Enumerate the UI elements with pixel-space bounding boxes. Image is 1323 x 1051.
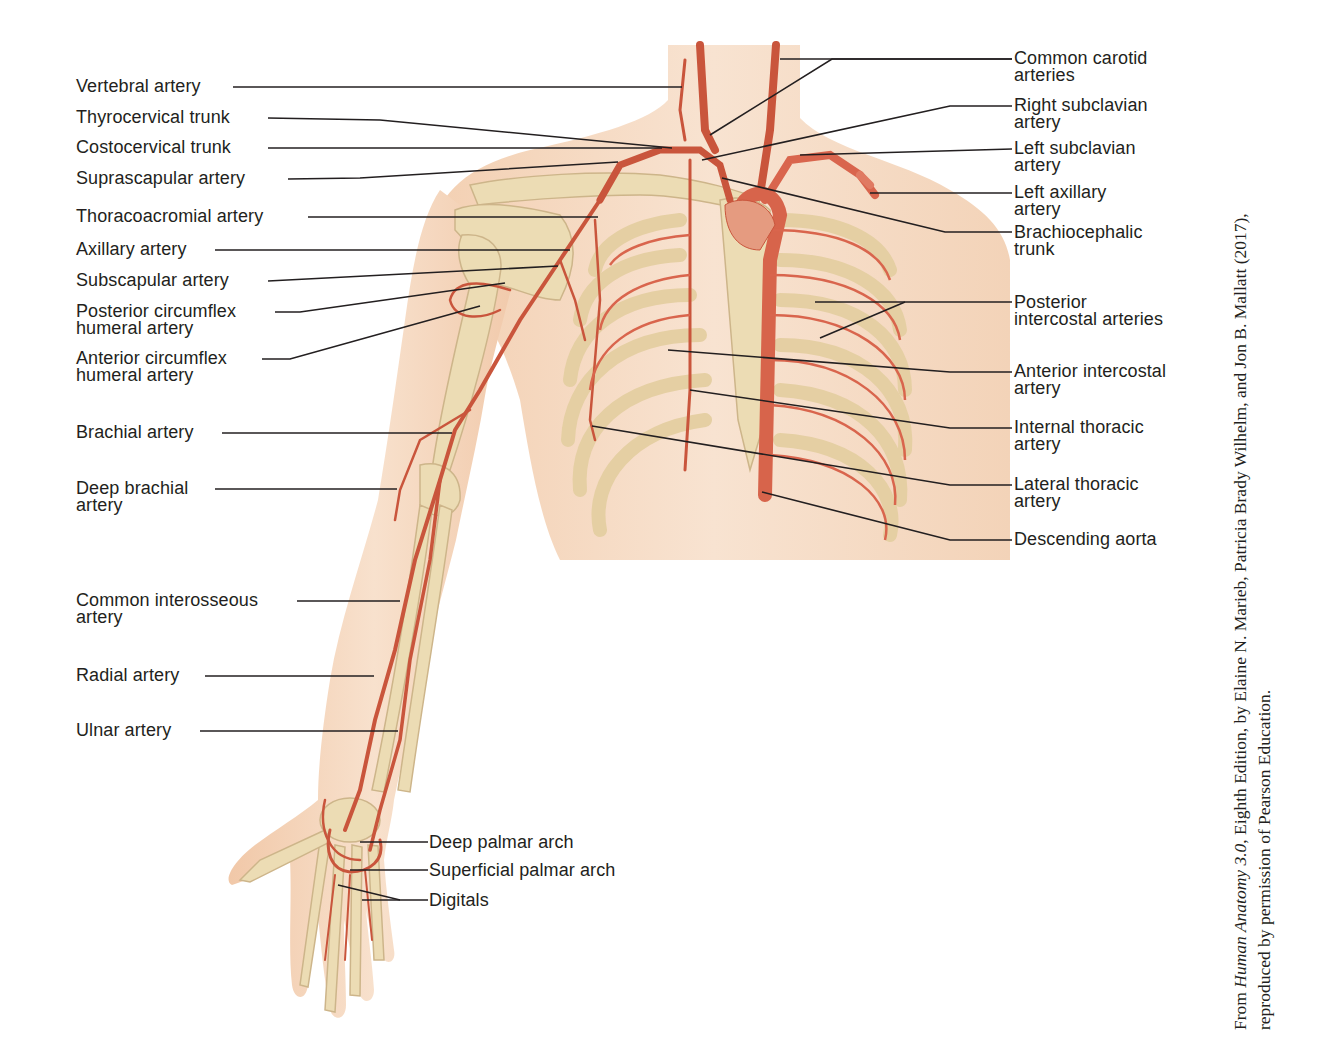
label-digitals: Digitals: [429, 892, 489, 909]
label-superficial-palmar-arch: Superficial palmar arch: [429, 862, 615, 879]
label-thyrocervical-trunk: Thyrocervical trunk: [76, 109, 230, 126]
label-costocervical-trunk: Costocervical trunk: [76, 139, 231, 156]
label-brachial-artery: Brachial artery: [76, 424, 194, 441]
label-suprascapular-artery: Suprascapular artery: [76, 170, 245, 187]
label-anterior-intercostal-artery: Anterior intercostal artery: [1014, 363, 1166, 397]
label-common-carotid-arteries: Common carotid arteries: [1014, 50, 1147, 84]
label-radial-artery: Radial artery: [76, 667, 179, 684]
label-thoracoacromial-artery: Thoracoacromial artery: [76, 208, 263, 225]
label-ulnar-artery: Ulnar artery: [76, 722, 171, 739]
label-right-subclavian-artery: Right subclavian artery: [1014, 97, 1148, 131]
label-vertebral-artery: Vertebral artery: [76, 78, 201, 95]
source-credit: From Human Anatomy 3.0, Eighth Edition, …: [1228, 213, 1276, 1030]
label-brachiocephalic-trunk: Brachiocephalic trunk: [1014, 224, 1143, 258]
label-descending-aorta: Descending aorta: [1014, 531, 1157, 548]
artery-diagram: Vertebral artery Thyrocervical trunk Cos…: [0, 0, 1323, 1051]
label-lateral-thoracic-artery: Lateral thoracic artery: [1014, 476, 1139, 510]
label-anterior-circumflex-humeral-artery: Anterior circumflex humeral artery: [76, 350, 227, 384]
credit-line-2: reproduced by permission of Pearson Educ…: [1252, 213, 1276, 1030]
label-subscapular-artery: Subscapular artery: [76, 272, 229, 289]
label-internal-thoracic-artery: Internal thoracic artery: [1014, 419, 1144, 453]
label-left-subclavian-artery: Left subclavian artery: [1014, 140, 1136, 174]
label-axillary-artery: Axillary artery: [76, 241, 187, 258]
book-title: Human Anatomy 3.0: [1230, 844, 1250, 988]
label-left-axillary-artery: Left axillary artery: [1014, 184, 1106, 218]
label-posterior-intercostal-arteries: Posterior intercostal arteries: [1014, 294, 1163, 328]
label-deep-brachial-artery: Deep brachial artery: [76, 480, 188, 514]
label-posterior-circumflex-humeral-artery: Posterior circumflex humeral artery: [76, 303, 236, 337]
label-common-interosseous-artery: Common interosseous artery: [76, 592, 258, 626]
label-deep-palmar-arch: Deep palmar arch: [429, 834, 574, 851]
credit-line-1: From Human Anatomy 3.0, Eighth Edition, …: [1228, 213, 1252, 1030]
